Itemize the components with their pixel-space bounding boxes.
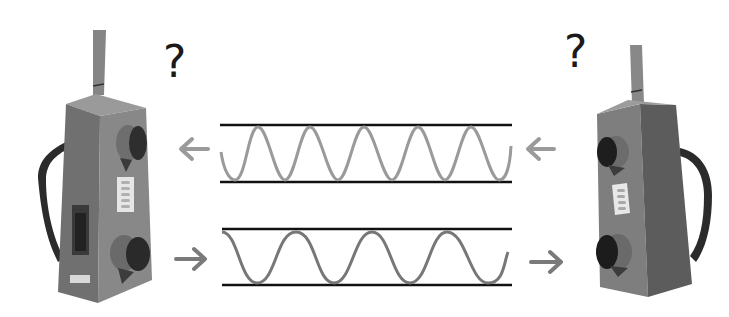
- left-front-face: [58, 104, 100, 303]
- bottom-right-arrow-icon: [531, 252, 561, 272]
- top-right-arrow-icon: [528, 139, 554, 159]
- left-front-screen: [72, 205, 89, 255]
- communication-diagram: ? ?: [0, 0, 729, 317]
- right-walkie-talkie: [596, 45, 712, 297]
- top-left-arrow-icon: [181, 139, 208, 159]
- right-display-panel: [612, 183, 630, 215]
- left-question-mark: ?: [163, 40, 186, 84]
- top-channel-wave: [221, 127, 511, 180]
- left-antenna: [93, 30, 106, 95]
- bottom-left-arrow-icon: [176, 249, 205, 269]
- left-walkie-talkie: [38, 30, 152, 303]
- bottom-channel: [176, 229, 561, 285]
- right-antenna: [630, 45, 644, 104]
- left-display-panel: [117, 177, 134, 212]
- right-question-mark: ?: [564, 30, 587, 74]
- left-label-plate: [70, 275, 90, 283]
- bottom-channel-wave: [222, 232, 508, 283]
- right-side-face: [640, 104, 692, 297]
- top-channel: [181, 125, 554, 182]
- diagram-canvas: [0, 0, 729, 317]
